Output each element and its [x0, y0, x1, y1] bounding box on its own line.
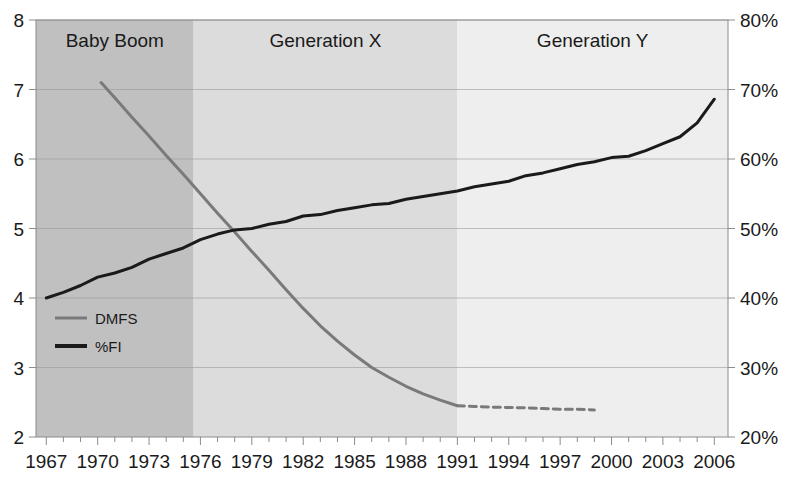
x-axis-tick-label: 1979: [231, 451, 273, 472]
x-axis-tick-label: 1997: [539, 451, 581, 472]
y-axis-left-tick-label: 5: [13, 219, 24, 240]
x-axis-tick-label: 1970: [77, 451, 119, 472]
generation-band-label-group: Baby BoomGeneration XGeneration Y: [66, 30, 649, 51]
band-label-1: Baby Boom: [66, 30, 164, 51]
y-axis-left-tick-label: 7: [13, 80, 24, 101]
x-axis-tick-label: 1994: [488, 451, 531, 472]
x-axis-tick-label: 2003: [642, 451, 684, 472]
y-axis-left-tick-label: 6: [13, 149, 24, 170]
y-axis-right-tick-label: 20%: [740, 427, 778, 448]
legend-label-fi: %FI: [95, 338, 122, 355]
band-label-2: Generation X: [269, 30, 381, 51]
y-axis-right-tick-label: 70%: [740, 80, 778, 101]
chart-container: Baby BoomGeneration XGeneration Y 196719…: [0, 0, 791, 482]
x-axis-tick-label: 1985: [333, 451, 375, 472]
y-axis-left-tick-label: 2: [13, 427, 24, 448]
x-axis-tick-label: 1991: [436, 451, 478, 472]
y-axis-right-tick-label: 30%: [740, 358, 778, 379]
legend-label-dmfs: DMFS: [95, 310, 138, 327]
y-axis-left-tick-label: 4: [13, 288, 24, 309]
y-axis-left-tick-label: 8: [13, 10, 24, 31]
x-axis-tick-label: 1982: [282, 451, 324, 472]
x-axis-tick-label: 1973: [128, 451, 170, 472]
y-axis-right-tick-label: 80%: [740, 10, 778, 31]
band-label-3: Generation Y: [537, 30, 649, 51]
x-axis-tick-label: 1988: [385, 451, 427, 472]
y-axis-right-tick-label: 60%: [740, 149, 778, 170]
y-axis-left-tick-label: 3: [13, 358, 24, 379]
generation-dmfs-fi-line-chart: Baby BoomGeneration XGeneration Y 196719…: [0, 0, 791, 482]
x-axis-tick-label: 2006: [693, 451, 735, 472]
y-axis-right-tick-label: 50%: [740, 219, 778, 240]
y-axis-right-tick-label: 40%: [740, 288, 778, 309]
x-axis-tick-label: 1967: [25, 451, 67, 472]
x-axis-tick-label: 2000: [590, 451, 632, 472]
x-axis-tick-label: 1976: [179, 451, 221, 472]
